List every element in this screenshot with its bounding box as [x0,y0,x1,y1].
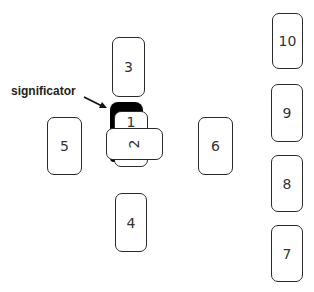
card-5-number: 5 [60,138,69,154]
card-8: 8 [271,155,303,212]
card-2-number: 2 [126,140,142,149]
card-6: 6 [198,117,233,175]
card-4-number: 4 [127,215,136,231]
card-6-number: 6 [211,138,220,154]
card-9-number: 9 [283,105,292,121]
card-9: 9 [271,84,303,142]
card-7-number: 7 [283,246,292,262]
card-8-number: 8 [283,176,292,192]
card-10-number: 10 [279,33,297,49]
card-3: 3 [112,37,145,97]
card-7: 7 [271,225,303,282]
card-5: 5 [47,117,82,175]
card-10: 10 [272,13,303,69]
card-2: 2 [106,128,163,160]
card-4: 4 [115,193,147,252]
card-3-number: 3 [124,59,133,75]
